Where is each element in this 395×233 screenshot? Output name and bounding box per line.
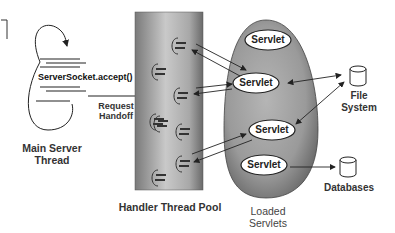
diagram-canvas: [0, 0, 395, 233]
file-system-line2: System: [338, 102, 380, 114]
loaded-line2: Servlets: [240, 217, 296, 229]
main-thread-line2: Thread: [14, 154, 90, 166]
main-thread-line1: Main Server: [14, 142, 90, 154]
database-icon: [340, 157, 356, 177]
file-system-label: File System: [338, 90, 380, 113]
loaded-servlets-label: Loaded Servlets: [240, 205, 296, 229]
server-socket-accept-label: ServerSocket.accept(): [38, 72, 133, 82]
servlet-label: Servlet: [249, 124, 295, 135]
handler-thread-pool: [135, 12, 203, 190]
corner-bracket: [1, 20, 7, 39]
handoff-line2: Handoff: [94, 111, 138, 121]
databases-label: Databases: [320, 182, 378, 194]
request-handoff-label: Request Handoff: [94, 101, 138, 122]
servlet-label: Servlet: [233, 77, 279, 88]
loaded-line1: Loaded: [240, 205, 296, 217]
main-server-thread-label: Main Server Thread: [14, 142, 90, 166]
file-system-line1: File: [338, 90, 380, 102]
servlet-label: Servlet: [241, 159, 287, 170]
handoff-line1: Request: [94, 101, 138, 111]
file-system-icon: [350, 66, 366, 86]
handler-thread-pool-label: Handler Thread Pool: [118, 201, 222, 213]
servlet-label: Servlet: [245, 34, 291, 45]
